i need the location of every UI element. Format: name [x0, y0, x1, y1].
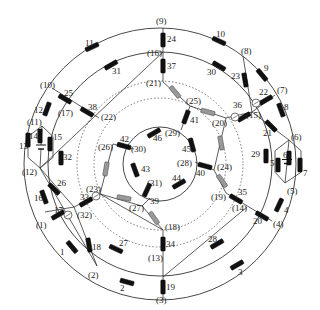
node-label-10: (10) [40, 80, 55, 90]
node-label-11: (11) [27, 117, 42, 127]
element-label-10: 10 [216, 29, 226, 39]
element-label-37: 37 [167, 61, 177, 71]
node-label-30: (30) [131, 144, 146, 154]
element-label-38: 38 [88, 102, 98, 112]
element-label-30: 30 [207, 67, 217, 77]
element-label-7: 7 [303, 168, 308, 178]
element-label-26: 26 [57, 178, 67, 188]
node-label-5: (5) [287, 186, 298, 196]
node-label-13: (13) [148, 253, 163, 263]
element-label-23: 23 [231, 71, 241, 81]
network-diagram: 1234567891011121314151617181920212223242… [0, 0, 320, 310]
node-label-15: (15) [246, 110, 261, 120]
element-label-4: 4 [284, 205, 289, 215]
source-lead [40, 149, 41, 168]
element-label-21: 21 [263, 128, 272, 138]
branch-element-24 [161, 33, 165, 47]
element-label-20: 20 [253, 216, 263, 226]
branch-element-37 [161, 59, 165, 73]
element-label-34: 34 [166, 239, 176, 249]
node-label-19: (19) [211, 192, 226, 202]
node-label-28: (28) [177, 158, 192, 168]
branch-element-19 [161, 280, 165, 294]
element-label-46: 46 [153, 133, 163, 143]
node-label-16: (16) [147, 48, 162, 58]
element-label-28: 28 [208, 234, 218, 244]
node-label-21: (21) [146, 78, 161, 88]
element-label-15: 15 [53, 132, 63, 142]
element-label-16: 16 [34, 193, 44, 203]
branch-element-g1 [169, 85, 181, 99]
node-label-23: (23) [86, 184, 101, 194]
element-label-19: 19 [166, 282, 176, 292]
node-label-14: (14) [232, 203, 247, 213]
branch-element-5 [276, 158, 280, 172]
element-label-17: 17 [54, 205, 64, 215]
element-label-12: 12 [34, 105, 43, 115]
branch-element-15 [48, 137, 52, 151]
node-label-25: (25) [186, 96, 201, 106]
element-label-22: 22 [259, 87, 268, 97]
element-label-29: 29 [251, 149, 261, 159]
element-label-45: 45 [182, 144, 192, 154]
element-label-39: 39 [150, 196, 160, 206]
element-label-36: 36 [233, 100, 243, 110]
node-label-27: (27) [129, 203, 144, 213]
node-label-20: (20) [212, 118, 227, 128]
node-label-7: (7) [277, 85, 288, 95]
node-label-29: (29) [165, 128, 180, 138]
element-label-31: 31 [112, 66, 121, 76]
element-label-43: 43 [141, 164, 151, 174]
element-label-32: 32 [63, 152, 72, 162]
node-label-3: (3) [156, 295, 167, 305]
element-label-18: 18 [92, 242, 102, 252]
element-label-5: 5 [270, 158, 275, 168]
branch-element-g6 [117, 195, 132, 202]
branch-element-g2 [201, 108, 216, 116]
branch-element-43 [131, 163, 140, 178]
branch-element-29 [264, 149, 268, 163]
node-label-8: (8) [241, 46, 252, 56]
element-label-8: 8 [284, 102, 289, 112]
element-label-11: 11 [85, 38, 94, 48]
node-label-12: (12) [22, 167, 37, 177]
branch-element-g5 [103, 162, 110, 177]
node-label-2: (2) [88, 270, 99, 280]
node-label-1: (1) [36, 220, 47, 230]
branch-element-4 [274, 198, 284, 213]
element-label-40: 40 [196, 168, 206, 178]
node-label-18: (18) [165, 222, 180, 232]
node-label-9: (9) [156, 16, 167, 26]
node-label-17: (17) [58, 108, 73, 118]
node-label-32: (32) [77, 210, 92, 220]
branch-element-1 [66, 240, 78, 254]
element-label-1: 1 [60, 247, 65, 257]
branch-element-34 [161, 237, 165, 251]
node-label-26: (26) [98, 142, 113, 152]
branch-element-14 [38, 129, 42, 143]
element-label-3: 3 [238, 267, 243, 277]
element-label-41: 41 [190, 115, 199, 125]
element-label-2: 2 [120, 283, 125, 293]
element-label-42: 42 [120, 134, 129, 144]
element-label-9: 9 [264, 63, 269, 73]
circuit-canvas: 1234567891011121314151617181920212223242… [0, 0, 320, 310]
element-label-44: 44 [172, 173, 182, 183]
source-lead [285, 164, 287, 184]
element-label-25: 25 [64, 88, 74, 98]
branch-element-g3 [218, 136, 225, 151]
element-label-14: 14 [29, 131, 39, 141]
element-label-24: 24 [167, 34, 177, 44]
node-label-4: (4) [273, 219, 284, 229]
branch-element-12 [43, 102, 52, 117]
node-label-22: (22) [101, 112, 116, 122]
element-label-27: 27 [119, 238, 129, 248]
node-label-6: (6) [291, 132, 302, 142]
node-label-24: (24) [217, 162, 232, 172]
element-label-13: 13 [19, 141, 29, 151]
element-label-35: 35 [238, 187, 248, 197]
branch-element-23 [242, 73, 249, 88]
node-label-31: (31) [147, 178, 162, 188]
branch-element-7 [298, 158, 302, 172]
element-label-6: 6 [283, 150, 288, 160]
